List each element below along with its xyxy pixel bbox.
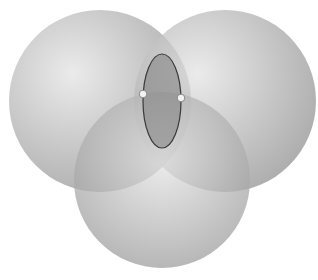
- ellipse-group: [143, 54, 181, 148]
- point-left: [139, 90, 147, 98]
- point-right: [177, 94, 185, 102]
- venn-canvas: [0, 0, 318, 280]
- intersection-ellipse: [143, 54, 181, 148]
- venn-diagram: [0, 0, 318, 280]
